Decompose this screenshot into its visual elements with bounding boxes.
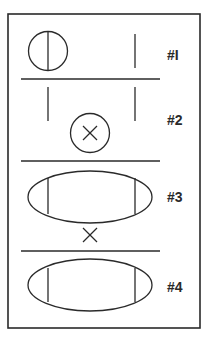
ellipse-icon	[28, 171, 152, 223]
panel-3-figure	[28, 171, 152, 242]
panel-1-figure	[29, 32, 136, 71]
diagram-canvas: #I #2 #3 #4	[0, 0, 207, 350]
panel-4-figure	[28, 259, 152, 311]
panel-4-label: #4	[167, 279, 183, 295]
panel-2-figure	[48, 87, 135, 153]
panel-3-label: #3	[167, 189, 183, 205]
panel-2-label: #2	[167, 112, 183, 128]
ellipse-icon	[28, 259, 152, 311]
panel-1-label: #I	[167, 47, 179, 63]
